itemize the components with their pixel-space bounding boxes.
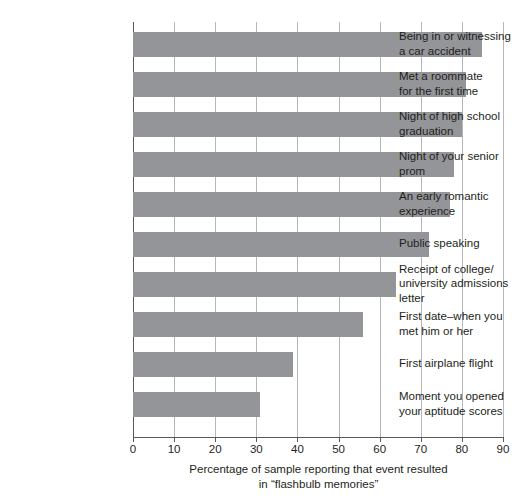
category-label-line: prom <box>399 164 519 179</box>
category-label: First date–when youmet him or her <box>399 309 527 338</box>
x-tick-label-50: 50 <box>332 443 345 455</box>
flashbulb-memories-bar-chart: 0102030405060708090 Being in or witnessi… <box>0 0 527 498</box>
category-label-line: Being in or witnessing <box>399 29 519 44</box>
x-tick-label-10: 10 <box>168 443 181 455</box>
x-tick-label-90: 90 <box>497 443 510 455</box>
x-tick-label-20: 20 <box>209 443 222 455</box>
bar <box>133 272 396 297</box>
category-label-line: Night of high school <box>399 109 519 124</box>
category-label-line: An early romantic <box>399 189 519 204</box>
x-tick-label-60: 60 <box>373 443 386 455</box>
category-label: Moment you openedyour aptitude scores <box>399 389 527 418</box>
x-tick-label-0: 0 <box>130 443 136 455</box>
x-tick-label-30: 30 <box>250 443 263 455</box>
category-label-line: graduation <box>399 124 519 139</box>
category-label-line: your aptitude scores <box>399 404 519 419</box>
bar <box>133 312 363 337</box>
category-label-line: Public speaking <box>399 236 519 251</box>
bar <box>133 232 429 257</box>
category-label-line: Moment you opened <box>399 389 519 404</box>
category-label-line: experience <box>399 204 519 219</box>
category-label: Met a roommatefor the first time <box>399 69 527 98</box>
category-label: Night of your seniorprom <box>399 149 527 178</box>
category-label-line: First date–when you <box>399 309 519 324</box>
bar <box>133 352 293 377</box>
category-label: Night of high schoolgraduation <box>399 109 527 138</box>
x-tick-label-70: 70 <box>414 443 427 455</box>
category-label-line: met him or her <box>399 324 519 339</box>
category-label: An early romanticexperience <box>399 189 527 218</box>
category-label: Public speaking <box>399 236 527 251</box>
category-label: Being in or witnessinga car accident <box>399 29 527 58</box>
category-label-line: Night of your senior <box>399 149 519 164</box>
category-label-line: university admissions <box>399 276 519 291</box>
category-label-line: First airplane flight <box>399 356 519 371</box>
category-label-line: Receipt of college/ <box>399 262 519 277</box>
category-label-line: letter <box>399 291 519 306</box>
category-label: First airplane flight <box>399 356 527 371</box>
x-axis-line <box>133 437 504 438</box>
category-label-line: a car accident <box>399 44 519 59</box>
x-tick-label-40: 40 <box>291 443 304 455</box>
x-axis-caption-line2: in “flashbulb memories” <box>133 477 504 492</box>
category-label: Receipt of college/university admissions… <box>399 262 527 306</box>
bar <box>133 392 260 417</box>
category-label-line: for the first time <box>399 84 519 99</box>
x-axis-caption: Percentage of sample reporting that even… <box>133 462 504 492</box>
category-label-line: Met a roommate <box>399 69 519 84</box>
x-tick-label-80: 80 <box>455 443 468 455</box>
x-axis-caption-line1: Percentage of sample reporting that even… <box>133 462 504 477</box>
